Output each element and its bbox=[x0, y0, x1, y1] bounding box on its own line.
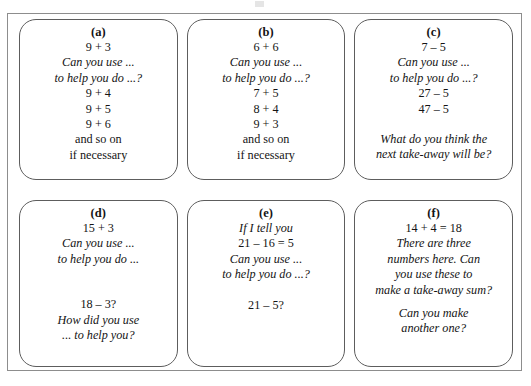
card-a-line-3: to help you do ...? bbox=[54, 71, 142, 86]
card-e-line-2: 21 – 16 = 5 bbox=[238, 236, 294, 251]
card-b-label: (b) bbox=[258, 25, 274, 40]
card-e-line-3: Can you use ... bbox=[230, 252, 302, 267]
card-c-line-7: next take-away will be? bbox=[376, 147, 491, 162]
card-f-label: (f) bbox=[427, 206, 440, 221]
card-d-line-6: ... to help you? bbox=[62, 328, 134, 343]
card-a-line-7: and so on bbox=[75, 132, 122, 147]
card-a: (a) 9 + 3 Can you use ... to help you do… bbox=[19, 19, 178, 180]
card-b-line-1: 6 + 6 bbox=[253, 40, 278, 55]
card-f-line-3: numbers here. Can bbox=[387, 252, 480, 267]
card-e: (e) If I tell you 21 – 16 = 5 Can you us… bbox=[187, 200, 346, 367]
card-a-line-4: 9 + 4 bbox=[86, 86, 111, 101]
card-b-line-7: and so on bbox=[243, 132, 290, 147]
worksheet-frame: (a) 9 + 3 Can you use ... to help you do… bbox=[7, 13, 522, 371]
card-b: (b) 6 + 6 Can you use ... to help you do… bbox=[187, 19, 346, 180]
card-a-line-5: 9 + 5 bbox=[86, 102, 111, 117]
card-d: (d) 15 + 3 Can you use ... to help you d… bbox=[19, 200, 178, 367]
card-b-line-8: if necessary bbox=[237, 148, 295, 163]
card-f-line-6: Can you make bbox=[399, 306, 469, 321]
card-e-label: (e) bbox=[259, 206, 273, 221]
card-c-line-2: Can you use ... bbox=[397, 55, 469, 70]
card-c-line-3: to help you do ...? bbox=[390, 71, 478, 86]
card-d-line-4: 18 – 3? bbox=[80, 297, 116, 312]
card-d-line-3: to help you do ... bbox=[58, 252, 140, 267]
scan-artifact bbox=[255, 1, 264, 7]
card-c-label: (c) bbox=[427, 25, 441, 40]
card-d-line-2: Can you use ... bbox=[62, 236, 134, 251]
card-f: (f) 14 + 4 = 18 There are three numbers … bbox=[354, 200, 513, 367]
card-f-line-5: make a take-away sum? bbox=[375, 283, 492, 298]
card-f-line-7: another one? bbox=[401, 321, 466, 336]
card-a-line-2: Can you use ... bbox=[62, 55, 134, 70]
card-c-line-6: What do you think the bbox=[380, 132, 487, 147]
card-d-line-1: 15 + 3 bbox=[83, 221, 114, 236]
card-c: (c) 7 – 5 Can you use ... to help you do… bbox=[354, 19, 513, 180]
card-a-line-6: 9 + 6 bbox=[86, 117, 111, 132]
card-c-line-5: 47 – 5 bbox=[418, 102, 448, 117]
card-c-line-1: 7 – 5 bbox=[421, 40, 445, 55]
card-grid: (a) 9 + 3 Can you use ... to help you do… bbox=[19, 19, 513, 367]
card-b-line-6: 9 + 3 bbox=[253, 117, 278, 132]
card-d-line-5: How did you use bbox=[58, 313, 140, 328]
card-a-line-8: if necessary bbox=[69, 148, 127, 163]
card-b-line-3: to help you do ...? bbox=[222, 71, 310, 86]
card-e-line-4: to help you do ...? bbox=[222, 267, 310, 282]
card-b-line-4: 7 + 5 bbox=[253, 86, 278, 101]
card-b-line-2: Can you use ... bbox=[230, 55, 302, 70]
card-a-line-1: 9 + 3 bbox=[86, 40, 111, 55]
card-c-line-4: 27 – 5 bbox=[418, 86, 448, 101]
card-b-line-5: 8 + 4 bbox=[253, 102, 278, 117]
card-e-line-1: If I tell you bbox=[239, 221, 293, 236]
card-f-line-4: you use these to bbox=[395, 267, 473, 282]
card-d-label: (d) bbox=[91, 206, 107, 221]
card-f-line-2: There are three bbox=[396, 236, 470, 251]
card-f-line-1: 14 + 4 = 18 bbox=[405, 221, 461, 236]
card-e-line-5: 21 – 5? bbox=[248, 298, 284, 313]
card-a-label: (a) bbox=[91, 25, 106, 40]
